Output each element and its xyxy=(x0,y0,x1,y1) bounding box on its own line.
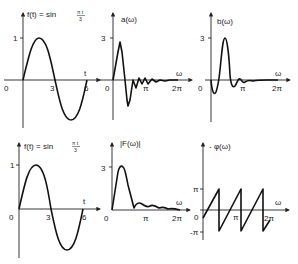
svg-text:π: π xyxy=(143,84,149,93)
svg-text:6: 6 xyxy=(84,84,89,93)
svg-text:3: 3 xyxy=(101,34,106,43)
svg-text:0: 0 xyxy=(105,84,110,93)
svg-text:6: 6 xyxy=(82,213,87,222)
panel-bottom-middle-magnitude: |F(ω)| 3 0 π 2π ω xyxy=(101,139,190,223)
svg-text:0: 0 xyxy=(9,213,14,222)
svg-text:3: 3 xyxy=(74,147,77,153)
svg-text:π: π xyxy=(143,214,149,223)
svg-text:2π: 2π xyxy=(264,214,274,223)
panel-bottom-left-ft: f(t) = sin π t 3 1 0 3 6 t xyxy=(9,140,100,258)
svg-text:f(t) = sin: f(t) = sin xyxy=(24,142,53,151)
svg-text:0: 0 xyxy=(4,84,9,93)
svg-text:3: 3 xyxy=(200,34,205,43)
svg-text:ω: ω xyxy=(176,69,182,78)
sine-curve xyxy=(19,165,83,250)
svg-text:t: t xyxy=(83,197,86,206)
svg-text:3: 3 xyxy=(46,213,51,222)
svg-text:1: 1 xyxy=(13,34,18,43)
panel-bottom-right-phase: - φ(ω) π -π 0 π 2π ω xyxy=(190,142,289,240)
svg-text:1: 1 xyxy=(10,161,15,170)
svg-text:0: 0 xyxy=(194,213,199,222)
svg-text:a(ω): a(ω) xyxy=(121,15,137,24)
svg-text:2π: 2π xyxy=(172,214,182,223)
svg-text:3: 3 xyxy=(101,164,106,173)
svg-text:π: π xyxy=(240,84,246,93)
svg-text:3: 3 xyxy=(79,16,82,22)
svg-text:-π: -π xyxy=(190,228,199,237)
svg-text:π: π xyxy=(233,213,239,222)
panel-top-right-b-omega: b(ω) 3 0 π 2π ω xyxy=(198,13,290,122)
sine-curve xyxy=(23,38,87,120)
svg-text:ω: ω xyxy=(176,198,182,207)
svg-text:π: π xyxy=(193,185,199,194)
svg-text:- φ(ω): - φ(ω) xyxy=(209,142,231,151)
svg-text:2π: 2π xyxy=(172,84,182,93)
svg-text:|F(ω)|: |F(ω)| xyxy=(120,139,141,148)
svg-text:ω: ω xyxy=(275,69,281,78)
svg-text:b(ω): b(ω) xyxy=(217,17,233,26)
plot-title: f(t) = sin xyxy=(27,10,56,19)
figure-canvas: f(t) = sin π t 3 1 0 3 6 t a(ω) 3 0 π 2π… xyxy=(0,0,298,264)
panel-top-middle-a-omega: a(ω) 3 0 π 2π ω xyxy=(97,13,192,120)
svg-text:t: t xyxy=(84,69,87,78)
svg-text:0: 0 xyxy=(198,84,203,93)
panel-top-left-ft: f(t) = sin π t 3 1 0 3 6 t xyxy=(4,9,100,128)
svg-text:2π: 2π xyxy=(272,84,282,93)
svg-text:π t: π t xyxy=(77,9,84,15)
svg-text:0: 0 xyxy=(104,214,109,223)
svg-text:π t: π t xyxy=(72,140,79,146)
magnitude-curve xyxy=(112,166,180,210)
a-omega-curve xyxy=(113,42,178,106)
svg-text:3: 3 xyxy=(50,84,55,93)
svg-text:ω: ω xyxy=(275,198,281,207)
